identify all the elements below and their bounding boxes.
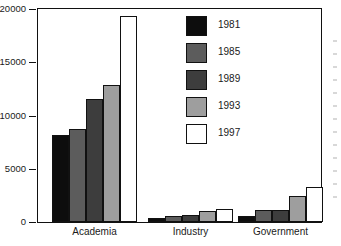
legend-swatch bbox=[186, 97, 207, 117]
y-tick-label: 0 bbox=[21, 216, 27, 228]
bar bbox=[165, 216, 182, 222]
bar bbox=[182, 215, 199, 222]
legend-label: 1993 bbox=[218, 100, 240, 111]
bar bbox=[69, 129, 86, 222]
y-axis: 05000100001500020000 bbox=[0, 0, 36, 246]
y-tick-label: 10000 bbox=[0, 110, 27, 122]
x-axis-label: Government bbox=[231, 226, 331, 237]
bar bbox=[255, 210, 272, 222]
bar bbox=[216, 209, 233, 222]
legend-swatch bbox=[186, 16, 207, 36]
bar bbox=[238, 216, 255, 222]
legend-label: 1981 bbox=[218, 19, 240, 30]
legend-swatch bbox=[186, 70, 207, 90]
x-axis-label: Industry bbox=[141, 226, 241, 237]
x-axis-label: Academia bbox=[45, 226, 145, 237]
legend-swatch bbox=[186, 43, 207, 63]
y-tick-label: 5000 bbox=[5, 163, 27, 175]
legend-item: 1981 bbox=[186, 14, 296, 40]
bar bbox=[103, 85, 120, 222]
legend-label: 1989 bbox=[218, 73, 240, 84]
legend-item: 1985 bbox=[186, 41, 296, 67]
legend-item: 1993 bbox=[186, 95, 296, 121]
bar bbox=[86, 99, 103, 222]
y-tick-mark bbox=[29, 222, 36, 223]
bar bbox=[289, 196, 306, 222]
y-tick-label: 20000 bbox=[0, 3, 27, 15]
scan-artifact bbox=[333, 40, 340, 240]
y-tick-mark bbox=[29, 62, 36, 63]
legend-label: 1997 bbox=[218, 127, 240, 138]
legend-label: 1985 bbox=[218, 46, 240, 57]
bar bbox=[148, 218, 165, 222]
legend: 19811985198919931997 bbox=[186, 14, 296, 149]
bar bbox=[52, 135, 69, 222]
y-tick-mark bbox=[29, 9, 36, 10]
legend-item: 1989 bbox=[186, 68, 296, 94]
legend-item: 1997 bbox=[186, 122, 296, 148]
bar bbox=[199, 211, 216, 222]
y-tick-mark bbox=[29, 169, 36, 170]
bar bbox=[306, 187, 323, 222]
bar-chart: 05000100001500020000 AcademiaIndustryGov… bbox=[0, 0, 341, 246]
bar bbox=[120, 16, 137, 222]
legend-swatch bbox=[186, 124, 207, 144]
bar bbox=[272, 210, 289, 222]
y-tick-label: 15000 bbox=[0, 56, 27, 68]
bar-group bbox=[52, 9, 137, 222]
y-tick-mark bbox=[29, 116, 36, 117]
